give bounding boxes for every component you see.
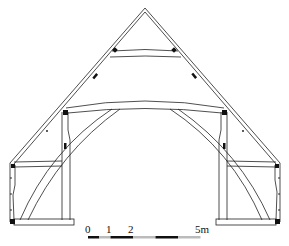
joint-left-wall-base <box>10 219 15 224</box>
peg-left-wall-3 <box>10 209 12 211</box>
peg-left-wall-1 <box>10 177 12 179</box>
joint-collar-left <box>112 47 118 53</box>
scale-segment <box>99 236 110 239</box>
scale-segment <box>133 236 156 239</box>
scale-label-0: 0 <box>85 223 91 235</box>
peg-right-wall-3 <box>278 209 280 211</box>
scale-segment <box>178 236 201 239</box>
scale-label-5m: 5m <box>195 223 210 235</box>
scale-label-2: 2 <box>128 223 134 235</box>
peg-right-post <box>223 143 226 149</box>
peg-right-wall-1 <box>278 177 280 179</box>
peg-left-upper <box>92 73 98 79</box>
joint-right-wall-base <box>275 219 280 224</box>
left-post <box>62 112 70 220</box>
peg-left-rafter <box>46 130 48 132</box>
scale-segment <box>156 236 179 239</box>
tie-beam <box>66 101 224 113</box>
peg-right-upper <box>191 73 197 79</box>
roof-truss-diagram: 0 1 2 5m <box>0 0 289 246</box>
scale-segment <box>111 236 134 239</box>
right-aisle-beam <box>227 161 276 167</box>
left-wall-post <box>10 163 15 222</box>
left-aisle-beam <box>14 161 62 167</box>
scale-segment <box>88 236 99 239</box>
peg-right-wall-2 <box>278 193 280 195</box>
collar-beam <box>110 50 181 58</box>
joint-tie-left <box>63 110 68 115</box>
right-sill-plate <box>216 219 276 225</box>
joint-left-wall-top <box>11 164 15 168</box>
joint-right-wall-top <box>275 164 279 168</box>
right-arch-brace <box>170 109 270 220</box>
peg-left-wall-2 <box>10 193 12 195</box>
left-sill-plate <box>14 219 74 225</box>
peg-left-post <box>64 143 67 149</box>
scale-label-1: 1 <box>106 223 112 235</box>
scale-bar: 0 1 2 5m <box>85 223 210 239</box>
left-rafter <box>10 8 145 164</box>
right-rafter <box>145 8 280 164</box>
right-wall-post <box>275 163 280 222</box>
peg-right-rafter <box>242 130 244 132</box>
joint-tie-right <box>222 110 227 115</box>
right-post <box>219 112 227 220</box>
